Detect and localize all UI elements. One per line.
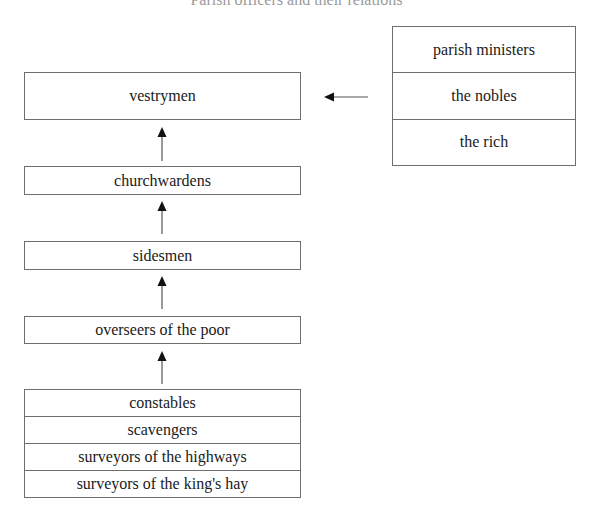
vestrymen-box: vestrymen bbox=[24, 72, 301, 120]
arrow-sidesmen-to-churchwardens bbox=[158, 201, 167, 234]
nobles-label: the nobles bbox=[451, 87, 516, 105]
scavengers-label: scavengers bbox=[127, 421, 197, 439]
lower-officer-row: surveyors of the king's hay bbox=[25, 471, 300, 497]
vestrymen-label: vestrymen bbox=[129, 87, 196, 105]
lower-officer-row: scavengers bbox=[25, 417, 300, 444]
lower-officers-box: constables scavengers surveyors of the h… bbox=[24, 389, 301, 498]
influencers-box: parish ministers the nobles the rich bbox=[392, 26, 576, 166]
influencer-row: parish ministers bbox=[393, 27, 575, 73]
arrow-overseers-to-sidesmen bbox=[158, 276, 167, 309]
arrow-churchwardens-to-vestrymen bbox=[158, 127, 167, 161]
rich-label: the rich bbox=[460, 133, 508, 151]
influencer-row: the nobles bbox=[393, 73, 575, 119]
arrow-influencers-to-vestrymen bbox=[324, 93, 368, 102]
churchwardens-label: churchwardens bbox=[114, 172, 211, 190]
sidesmen-box: sidesmen bbox=[24, 241, 301, 270]
lower-officer-row: constables bbox=[25, 390, 300, 417]
surveyors-highways-label: surveyors of the highways bbox=[78, 448, 246, 466]
parish-ministers-label: parish ministers bbox=[433, 41, 535, 59]
overseers-box: overseers of the poor bbox=[24, 316, 301, 344]
lower-officer-row: surveyors of the highways bbox=[25, 444, 300, 471]
surveyors-kings-hay-label: surveyors of the king's hay bbox=[77, 475, 249, 493]
arrow-lower-officers-to-overseers bbox=[158, 351, 167, 384]
diagram-title-cropped: Parish officers and their relations bbox=[0, 0, 593, 9]
churchwardens-box: churchwardens bbox=[24, 166, 301, 195]
influencer-row: the rich bbox=[393, 120, 575, 165]
sidesmen-label: sidesmen bbox=[133, 247, 193, 265]
constables-label: constables bbox=[129, 394, 196, 412]
overseers-label: overseers of the poor bbox=[95, 321, 230, 339]
